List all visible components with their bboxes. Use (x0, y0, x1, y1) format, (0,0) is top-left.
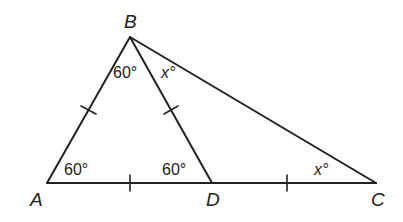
vertex-label-a: A (30, 190, 43, 209)
angle-label-c: x° (314, 162, 328, 178)
triangle-diagram (0, 0, 403, 222)
vertex-label-d: D (206, 190, 220, 209)
angle-label-adb: 60° (162, 162, 186, 178)
vertex-label-b: B (124, 12, 137, 31)
vertex-label-c: C (371, 190, 385, 209)
angle-label-abd: 60° (113, 65, 137, 81)
tick-mark-bd (164, 106, 178, 114)
angle-label-a: 60° (64, 162, 88, 178)
angle-label-dbc: x° (161, 65, 175, 81)
tick-mark-ab (81, 106, 96, 114)
